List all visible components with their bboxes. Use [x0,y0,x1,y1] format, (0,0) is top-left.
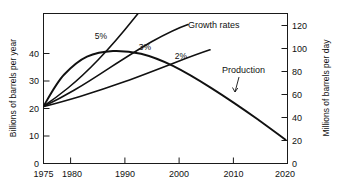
x-axis-tick-labels: 1975 1980 1990 2000 2010 2020 [33,169,295,179]
right-tick-label-60: 60 [292,90,302,100]
right-tick-label-100: 100 [292,44,307,54]
x-tick-label-1980: 1980 [62,169,82,179]
x-tick-label-2010: 2010 [223,169,243,179]
growth-rates-annotation: Growth rates [188,20,240,30]
left-axis-ticks [44,54,50,164]
series-label-3-percent: 3% [139,42,152,52]
right-tick-label-20: 20 [292,136,302,146]
right-axis-title: Millions of barrels per day [321,39,331,137]
x-tick-label-1975: 1975 [33,169,53,179]
plot-frame [44,14,288,164]
left-tick-label-40: 40 [29,49,39,59]
left-tick-label-30: 30 [29,76,39,86]
x-tick-label-2000: 2000 [169,169,189,179]
oil-production-growth-chart: 0 10 20 30 40 0 20 40 60 80 100 120 [0,0,339,193]
production-annotation: Production [222,65,265,75]
series-label-5-percent: 5% [95,31,108,41]
chart-figure: 0 10 20 30 40 0 20 40 60 80 100 120 [0,0,339,193]
left-tick-label-20: 20 [29,104,39,114]
left-tick-label-0: 0 [34,159,39,169]
series-label-2-percent: 2% [175,51,188,61]
right-tick-label-80: 80 [292,67,302,77]
right-axis-tick-labels: 0 20 40 60 80 100 120 [292,21,307,169]
right-tick-label-0: 0 [292,159,297,169]
left-tick-label-10: 10 [29,131,39,141]
x-tick-label-1990: 1990 [115,169,135,179]
left-axis-title: Billions of barrels per year [8,39,18,137]
left-axis-tick-labels: 0 10 20 30 40 [29,49,39,169]
right-tick-label-40: 40 [292,113,302,123]
right-tick-label-120: 120 [292,21,307,31]
x-axis-ticks [71,158,234,164]
x-tick-label-2020: 2020 [275,169,295,179]
right-axis-ticks [282,26,288,164]
